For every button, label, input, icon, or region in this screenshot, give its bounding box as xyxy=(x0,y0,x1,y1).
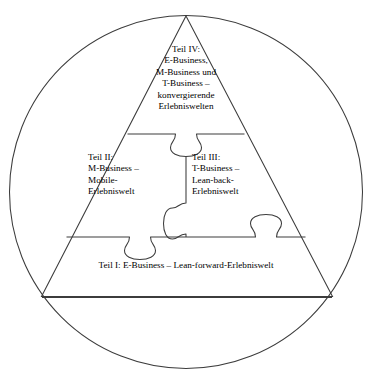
diagram-canvas: Teil IV: E-Business, M-Business und T-Bu… xyxy=(0,0,372,384)
pyramid-jigsaw-diagram xyxy=(0,0,372,384)
